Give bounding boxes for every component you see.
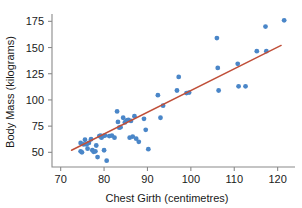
data-point — [215, 66, 220, 71]
y-tick-label: 100 — [26, 94, 44, 106]
x-axis-title: Chest Girth (centimetres) — [106, 192, 229, 204]
data-point — [282, 18, 287, 23]
data-point — [83, 137, 88, 142]
x-tick-label: 70 — [55, 173, 67, 185]
data-point — [155, 93, 160, 98]
data-point — [146, 147, 151, 152]
data-point — [216, 88, 221, 93]
scatter-plot-figure: 708090100110120 5075100125150175 Chest G… — [0, 0, 302, 208]
x-tick-label: 80 — [98, 173, 110, 185]
data-point — [175, 88, 180, 93]
data-point — [176, 74, 181, 79]
data-point — [243, 84, 248, 89]
data-point — [263, 24, 268, 29]
data-point — [143, 127, 148, 132]
y-axis-title: Body Mass (kilograms) — [4, 36, 16, 148]
chart-canvas: 708090100110120 5075100125150175 Chest G… — [0, 0, 302, 208]
data-point — [236, 84, 241, 89]
data-point — [142, 116, 147, 121]
data-point — [254, 49, 259, 54]
data-point — [116, 120, 121, 125]
data-point — [102, 148, 107, 153]
x-tick-label: 110 — [225, 173, 243, 185]
data-point — [93, 149, 98, 154]
x-tick-label: 100 — [182, 173, 200, 185]
data-point — [112, 135, 117, 140]
data-point — [115, 109, 120, 114]
y-tick-label: 50 — [32, 146, 44, 158]
data-point — [214, 36, 219, 41]
data-point — [80, 150, 85, 155]
y-tick-label: 175 — [26, 15, 44, 27]
y-tick-label: 150 — [26, 42, 44, 54]
data-point — [85, 146, 90, 151]
data-point — [94, 143, 99, 148]
y-tick-label: 125 — [26, 68, 44, 80]
x-tick-label: 90 — [141, 173, 153, 185]
data-point — [158, 115, 163, 120]
data-point — [104, 158, 109, 163]
y-tick-label: 75 — [32, 120, 44, 132]
data-point — [136, 139, 141, 144]
x-tick-label: 120 — [268, 173, 286, 185]
data-point — [95, 155, 100, 160]
